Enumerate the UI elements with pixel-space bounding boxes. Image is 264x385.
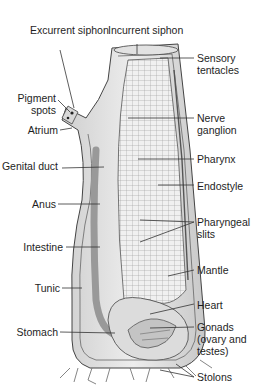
label-stolons: Stolons (197, 371, 232, 383)
label-intestine: Intestine (0, 241, 63, 253)
label-nerve-ganglion: Nerve ganglion (197, 112, 253, 136)
label-stomach: Stomach (0, 326, 58, 338)
label-excurrent-siphon: Excurrent siphon (30, 24, 90, 36)
label-pharyngeal-slits: Pharyngeal slits (197, 216, 259, 240)
label-pigment-spots: Pigment spots (0, 92, 56, 116)
label-anus: Anus (0, 198, 56, 210)
label-gonads: Gonads (ovary and testes) (197, 321, 259, 357)
label-heart: Heart (197, 299, 223, 311)
label-tunic: Tunic (0, 282, 60, 294)
label-incurrent-siphon: Incurrent siphon (108, 24, 168, 36)
label-pharynx: Pharynx (197, 153, 236, 165)
incurrent-siphon-opening (114, 45, 178, 55)
label-sensory-tentacles: Sensory tentacles (197, 52, 253, 76)
label-mantle: Mantle (197, 264, 229, 276)
label-genital-duct: Genital duct (0, 160, 58, 172)
tunicate-diagram: Excurrent siphon Incurrent siphon Sensor… (0, 0, 264, 385)
label-atrium: Atrium (0, 124, 58, 136)
label-endostyle: Endostyle (197, 180, 243, 192)
